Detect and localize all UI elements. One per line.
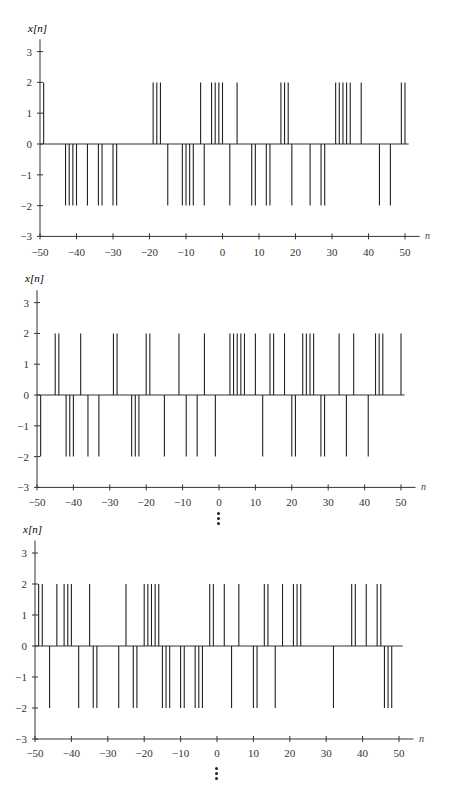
y-tick-label: 2: [24, 327, 30, 339]
stem-plot-3-svg: x[n]−3−2−10123−50−40−30−20−1001020304050…: [0, 525, 451, 770]
y-axis-label: x[n]: [24, 272, 44, 284]
x-tick-label: 0: [216, 496, 222, 508]
x-tick-label: −10: [177, 246, 195, 258]
y-axis-label: x[n]: [27, 22, 47, 34]
x-tick-label: 50: [396, 496, 408, 508]
y-tick-label: −2: [17, 451, 29, 463]
y-tick-label: 3: [27, 46, 33, 58]
x-tick-label: 10: [248, 747, 260, 759]
stem-plot-1-svg: x[n]−3−2−10123−50−40−30−20−1001020304050…: [0, 22, 451, 262]
y-tick-label: −1: [17, 420, 29, 432]
x-tick-label: 50: [400, 246, 412, 258]
x-tick-label: 20: [284, 747, 296, 759]
stem-plot-2-svg: x[n]−3−2−10123−50−40−30−20−1001020304050…: [0, 270, 451, 515]
x-tick-label: 0: [214, 747, 220, 759]
y-tick-label: 3: [22, 547, 28, 559]
x-tick-label: 10: [250, 496, 262, 508]
x-tick-label: 20: [290, 246, 302, 258]
x-tick-label: 0: [220, 246, 226, 258]
x-tick-label: −40: [68, 246, 86, 258]
x-tick-label: 50: [394, 747, 406, 759]
x-tick-label: 40: [357, 747, 369, 759]
stem-plot-2: x[n]−3−2−10123−50−40−30−20−1001020304050…: [0, 270, 451, 515]
x-tick-label: −40: [63, 747, 81, 759]
y-tick-label: −2: [20, 200, 32, 212]
x-tick-label: 40: [363, 246, 375, 258]
y-tick-label: 0: [22, 640, 28, 652]
x-tick-label: −40: [65, 496, 83, 508]
x-tick-label: 10: [254, 246, 266, 258]
y-tick-label: −2: [15, 702, 27, 714]
dot: [217, 517, 220, 520]
x-tick-label: −30: [104, 246, 122, 258]
x-axis-label: n: [419, 733, 424, 744]
y-tick-label: 0: [27, 138, 33, 150]
x-tick-label: −30: [101, 496, 119, 508]
x-tick-label: 30: [321, 747, 333, 759]
x-tick-label: −10: [172, 747, 190, 759]
y-tick-label: 1: [22, 609, 28, 621]
y-tick-label: 0: [24, 389, 30, 401]
y-tick-label: 1: [24, 358, 30, 370]
y-axis-label: x[n]: [22, 525, 42, 535]
y-tick-label: 3: [24, 297, 30, 309]
dot: [215, 767, 218, 770]
dot: [217, 512, 220, 515]
x-tick-label: 30: [323, 496, 335, 508]
x-tick-label: −50: [31, 246, 49, 258]
stem-plot-3: x[n]−3−2−10123−50−40−30−20−1001020304050…: [0, 525, 451, 770]
x-axis-label: n: [425, 230, 430, 241]
x-tick-label: 40: [359, 496, 371, 508]
y-tick-label: −3: [17, 481, 29, 493]
y-tick-label: −1: [15, 671, 27, 683]
y-tick-label: −3: [20, 230, 32, 242]
y-tick-label: 2: [22, 578, 28, 590]
cropped-caption-fragment: [0, 0, 451, 8]
x-tick-label: −20: [138, 496, 156, 508]
x-tick-label: −10: [174, 496, 192, 508]
y-tick-label: 2: [27, 76, 33, 88]
x-axis-label: n: [421, 481, 426, 492]
x-tick-label: −20: [136, 747, 154, 759]
x-tick-label: −50: [28, 496, 46, 508]
y-tick-label: −1: [20, 169, 32, 181]
x-tick-label: 30: [327, 246, 339, 258]
x-tick-label: −50: [26, 747, 44, 759]
x-tick-label: −30: [99, 747, 117, 759]
stem-plot-1: x[n]−3−2−10123−50−40−30−20−1001020304050…: [0, 22, 451, 262]
dot: [215, 777, 218, 780]
continuation-dots-2: [213, 765, 219, 782]
y-tick-label: 1: [27, 107, 33, 119]
x-tick-label: 20: [286, 496, 298, 508]
x-tick-label: −20: [141, 246, 159, 258]
dot: [215, 772, 218, 775]
y-tick-label: −3: [15, 733, 27, 745]
